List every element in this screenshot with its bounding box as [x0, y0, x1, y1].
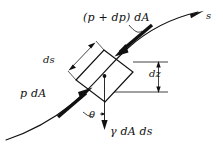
label-dz: dz: [149, 69, 161, 79]
label-ds: ds: [43, 55, 55, 65]
label-streamline-s: s: [206, 11, 211, 21]
label-theta: θ: [89, 110, 95, 120]
fluid-element-figure: (p + dp) dA p dA γ dA ds ds dz θ s: [0, 0, 223, 145]
ds-dimension-line: [68, 41, 104, 80]
pressure-force-arrow-left: [58, 88, 93, 118]
gravity-force-arrow: [101, 76, 107, 130]
label-weight: γ dA ds: [110, 126, 153, 137]
label-pressure-top: (p + dp) dA: [83, 12, 150, 23]
pressure-force-arrow-top: [115, 25, 153, 57]
label-pressure-left: p dA: [20, 88, 46, 99]
